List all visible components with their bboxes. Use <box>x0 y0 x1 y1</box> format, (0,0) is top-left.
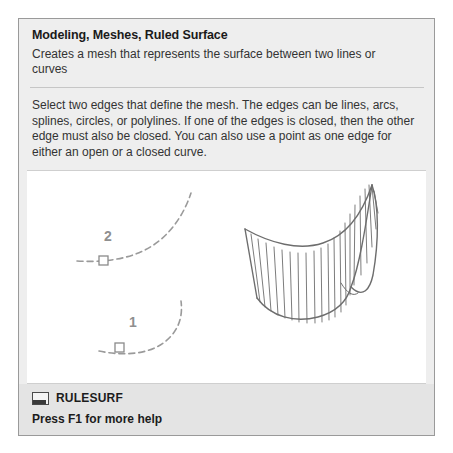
tooltip-summary: Creates a mesh that represents the surfa… <box>32 47 400 77</box>
pick-markers <box>99 256 124 352</box>
edge-label-1: 1 <box>129 314 137 330</box>
tooltip-description: Select two edges that define the mesh. T… <box>19 88 430 170</box>
edge-labels: 2 1 <box>104 228 137 330</box>
edge-marker-1 <box>115 343 124 352</box>
command-name: RULESURF <box>56 391 123 405</box>
mesh-inner-fold <box>341 283 358 295</box>
help-hint: Press F1 for more help <box>32 412 422 426</box>
edge-curve-2 <box>77 193 191 261</box>
illustration-canvas: 2 1 <box>27 170 426 384</box>
edge-label-2: 2 <box>104 228 112 244</box>
command-tooltip-panel: Modeling, Meshes, Ruled Surface Creates … <box>18 18 435 436</box>
command-monitor-icon <box>32 392 49 405</box>
tooltip-header: Modeling, Meshes, Ruled Surface Creates … <box>19 19 434 86</box>
edge-curve-1 <box>99 301 181 354</box>
mesh-bottom-rim <box>257 287 351 319</box>
ruled-surface-diagram: 2 1 <box>27 171 426 383</box>
command-line: RULESURF <box>32 391 422 405</box>
mesh-ruling-lines <box>251 185 378 323</box>
edge-marker-2 <box>99 256 108 265</box>
tooltip-footer: RULESURF Press F1 for more help <box>19 384 434 435</box>
mesh-top-rim <box>245 185 372 246</box>
ruled-surface-mesh <box>245 185 378 323</box>
page-title: Modeling, Meshes, Ruled Surface <box>32 28 422 42</box>
